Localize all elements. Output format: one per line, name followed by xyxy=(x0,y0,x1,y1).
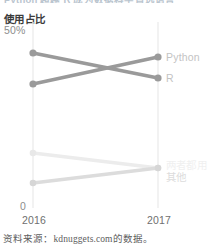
series-r xyxy=(29,49,161,81)
series-other-point-2017 xyxy=(155,165,162,172)
series-label-r: R xyxy=(166,72,174,84)
series-other-line xyxy=(33,168,158,183)
series-python-line xyxy=(33,57,158,84)
series-other-point-2016 xyxy=(30,180,37,187)
source-note: 资料来源：kdnuggets.com的数据。 xyxy=(3,231,153,245)
series-r-point-2017 xyxy=(154,74,161,81)
series-other xyxy=(30,165,162,187)
series-both-line xyxy=(33,153,158,168)
x-axis-label-2016: 2016 xyxy=(22,214,46,226)
series-python xyxy=(29,53,161,87)
series-python-point-2016 xyxy=(29,80,36,87)
series-label-both: 两者都用 xyxy=(166,159,207,171)
plot-area xyxy=(0,0,216,248)
series-label-other: 其他 xyxy=(166,171,186,183)
series-label-python: Python xyxy=(166,51,200,63)
series-both xyxy=(30,150,162,172)
slopegraph-chart: Python 超越 R 成为数据科学首选语言 使用占比 50% 0 xyxy=(0,0,216,248)
series-r-line xyxy=(33,53,158,78)
series-r-point-2016 xyxy=(29,49,36,56)
series-both-point-2016 xyxy=(30,150,37,157)
x-axis-label-2017: 2017 xyxy=(147,214,171,226)
series-python-point-2017 xyxy=(154,53,161,60)
